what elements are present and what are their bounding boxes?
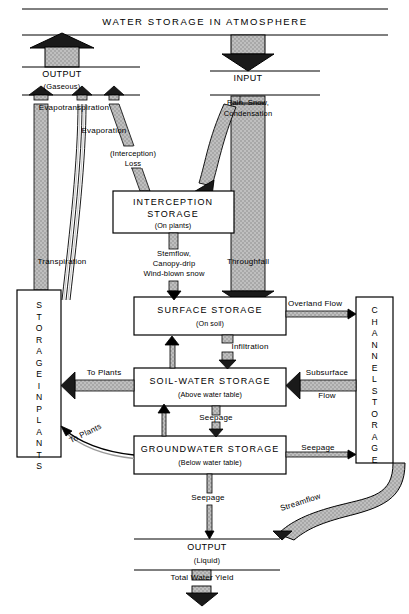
storage-in-plants-label: STORAGE IN PLANTS [17, 300, 61, 473]
total-water-yield-label: Total Water Yield [170, 574, 233, 582]
stemflow-label-line3: Wind-blown snow [143, 270, 204, 278]
evapotranspiration-label: Evapotranspiration [39, 104, 109, 112]
channel-storage-line2: STORAGE [371, 386, 378, 465]
soil-water-storage-title: SOIL-WATER STORAGE [149, 377, 270, 386]
diagram-canvas: WATER STORAGE IN ATMOSPHERE OUTPUT (Gase… [0, 0, 409, 614]
to-plants-from-soil-label: To Plants [87, 369, 122, 377]
stemflow-label-line1: Stemflow, [157, 250, 191, 258]
channel-storage-label: CHANNEL STORAGE [356, 305, 393, 466]
interception-storage-sublabel: (On plants) [155, 222, 192, 230]
output-liquid-sublabel: (Liquid) [194, 557, 221, 565]
evaporation-flux [62, 86, 92, 300]
interception-storage-title-line2: STORAGE [147, 210, 199, 219]
surface-storage-sublabel: (On soil) [196, 320, 224, 328]
overland-flow-flux [286, 309, 356, 319]
surface-storage-title: SURFACE STORAGE [157, 306, 262, 315]
output-liquid-label: OUTPUT [187, 543, 226, 552]
interception-loss-label-line1: (Interception) [110, 150, 156, 158]
output-gaseous-sublabel: (Gaseous) [44, 83, 81, 91]
groundwater-to-soil-flux [158, 404, 170, 436]
throughfall-label: Throughfall [227, 258, 269, 266]
input-label: INPUT [234, 74, 263, 83]
input-sublabel-line1: Rain, Snow, [227, 99, 269, 107]
output-gaseous-arrow [22, 33, 140, 67]
surface-storage-box-rect [134, 297, 286, 335]
infiltration-flux [219, 335, 236, 369]
seepage-soil-to-groundwater-label: Seepage [199, 414, 232, 422]
interception-storage-title-line1: INTERCEPTION [133, 198, 213, 207]
storage-in-plants-line1: STORAGE [36, 300, 43, 379]
output-gaseous-label: OUTPUT [42, 70, 81, 79]
groundwater-storage-title: GROUNDWATER STORAGE [141, 445, 280, 454]
input-arrow [210, 35, 320, 71]
storage-in-plants-line2: IN [36, 381, 42, 403]
subsurface-flow-label-line2: Flow [318, 392, 336, 400]
overland-flow-label: Overland Flow [288, 300, 342, 308]
seepage-groundwater-to-output-flux [205, 474, 214, 539]
storage-in-plants-line3: PLANTS [36, 404, 42, 472]
evaporation-label: Evaporation [82, 127, 127, 135]
groundwater-storage-box-rect [134, 436, 286, 474]
seepage-groundwater-to-channel-label: Seepage [301, 444, 334, 452]
streamflow-label: Streamflow [282, 505, 324, 513]
groundwater-storage-sublabel: (Below water table) [178, 459, 241, 467]
soil-to-surface-flux [165, 336, 179, 368]
infiltration-label: Infiltration [231, 343, 268, 351]
soil-water-storage-box-rect [134, 368, 286, 406]
input-sublabel-line2: Condensation [224, 110, 273, 118]
soil-water-storage-sublabel: (Above water table) [178, 391, 242, 399]
to-plants-from-groundwater-label: To Plants [72, 437, 107, 445]
interception-loss-label-line2: Loss [125, 160, 141, 168]
stemflow-label-line2: Canopy-drip [153, 260, 195, 268]
interception-loss-flux [104, 86, 150, 191]
seepage-groundwater-to-output-label: Seepage [191, 494, 224, 502]
transpiration-label: Transpiration [38, 258, 87, 266]
channel-storage-line1: CHANNEL [371, 305, 377, 384]
page-title: WATER STORAGE IN ATMOSPHERE [102, 17, 307, 27]
subsurface-flow-label-line1: Subsurface [306, 369, 348, 377]
